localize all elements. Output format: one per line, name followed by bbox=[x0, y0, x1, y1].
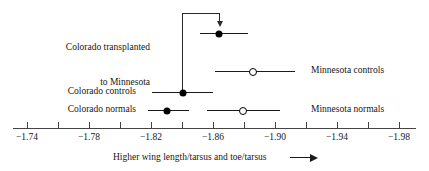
x-axis-line bbox=[13, 128, 416, 129]
caption-arrow-shaft bbox=[290, 157, 312, 158]
series-label-colorado-normals: Colorado normals bbox=[14, 104, 136, 116]
x-axis-tick-label: −1.78 bbox=[78, 132, 100, 143]
x-axis-tick bbox=[244, 122, 245, 129]
marker-minnesota-normals bbox=[239, 107, 247, 115]
x-axis-tick-label: −1.86 bbox=[202, 132, 224, 143]
series-label-line1: Colorado transplanted bbox=[14, 42, 150, 54]
x-axis-tick bbox=[368, 122, 369, 129]
x-axis-tick bbox=[120, 122, 121, 129]
series-label-colorado-controls: Colorado controls bbox=[14, 86, 136, 98]
x-axis-tick bbox=[213, 122, 214, 129]
series-label-minnesota-normals: Minnesota normals bbox=[311, 104, 384, 116]
error-bar-colorado-transplanted bbox=[200, 33, 248, 34]
x-axis-tick-label: −1.82 bbox=[140, 132, 162, 143]
x-axis-tick bbox=[275, 122, 276, 129]
transplant-bracket-vertical bbox=[182, 13, 183, 92]
x-axis-tick bbox=[399, 122, 400, 129]
marker-colorado-normals bbox=[164, 107, 171, 114]
marker-colorado-transplanted bbox=[216, 30, 223, 37]
transplant-bracket-horizontal bbox=[182, 13, 219, 14]
caption-arrow-head-icon bbox=[310, 154, 318, 162]
x-axis-tick bbox=[306, 122, 307, 129]
marker-colorado-controls bbox=[179, 89, 186, 96]
x-axis-tick bbox=[151, 122, 152, 129]
marker-minnesota-controls bbox=[249, 68, 257, 76]
figure-panel: Colorado transplanted to Minnesota Minne… bbox=[0, 0, 429, 171]
x-axis-tick-label: −1.74 bbox=[16, 132, 38, 143]
transplant-arrow-head-icon bbox=[217, 21, 223, 27]
x-axis-tick-label: −1.94 bbox=[326, 132, 348, 143]
x-axis-tick-label: −1.98 bbox=[388, 132, 410, 143]
x-axis-tick bbox=[182, 122, 183, 129]
x-axis-tick bbox=[58, 122, 59, 129]
x-axis-tick bbox=[27, 122, 28, 129]
series-label-minnesota-controls: Minnesota controls bbox=[311, 65, 384, 77]
x-axis-caption: Higher wing length/tarsus and toe/tarsus bbox=[113, 152, 267, 162]
x-axis-tick bbox=[89, 122, 90, 129]
x-axis-tick-label: −1.90 bbox=[264, 132, 286, 143]
x-axis-tick bbox=[337, 122, 338, 129]
